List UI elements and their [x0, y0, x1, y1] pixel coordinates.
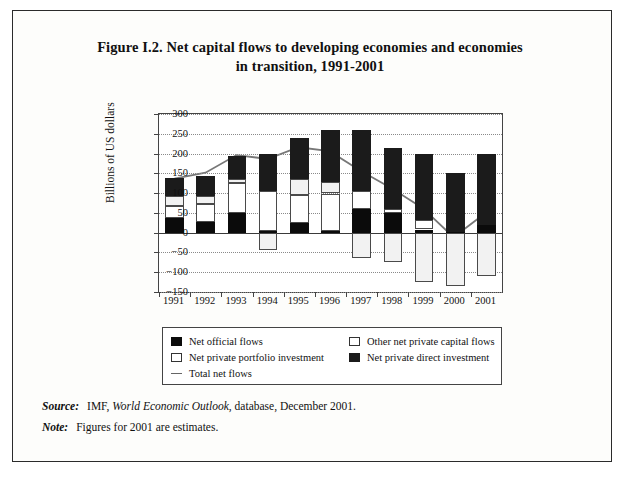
x-tick-mark [284, 292, 285, 297]
y-gridline [159, 292, 502, 293]
x-tick-label: 1996 [319, 295, 340, 306]
legend-label-direct: Net private direct investment [367, 352, 489, 363]
source-post: , database, December 2001. [229, 400, 356, 412]
bar-group[interactable] [228, 114, 247, 292]
open-square-icon [349, 337, 360, 346]
x-tick-label: 1998 [381, 295, 402, 306]
figure-title: Figure I.2. Net capital flows to develop… [60, 38, 560, 76]
note-text: Figures for 2001 are estimates. [76, 421, 562, 433]
y-tick-label: 0 [148, 226, 188, 237]
source-label: Source: [42, 400, 79, 412]
bar-segment-other [352, 233, 371, 259]
bar-segment-official [290, 223, 309, 233]
legend-row: Net official flows Other net private cap… [171, 333, 493, 349]
y-tick-label: −50 [148, 246, 188, 257]
x-tick-mark [315, 292, 316, 297]
bar-segment-other [321, 182, 340, 194]
bar-segment-official [228, 213, 247, 233]
bar-segment-official [477, 225, 496, 233]
bar-group[interactable] [259, 114, 278, 292]
bar-segment-portfolio [352, 191, 371, 209]
bar-segment-direct [446, 173, 465, 232]
bar-segment-portfolio [415, 220, 434, 230]
legend-item-official: Net official flows [171, 336, 349, 347]
figure-title-line-2: in transition, 1991-2001 [60, 57, 560, 76]
bar-segment-direct [259, 154, 278, 192]
source-publication: World Economic Outlook [112, 400, 228, 412]
bar-group[interactable] [290, 114, 309, 292]
legend-label-portfolio: Net private portfolio investment [189, 352, 324, 363]
bar-segment-other [477, 233, 496, 277]
y-tick-label: 150 [148, 167, 188, 178]
x-tick-mark [471, 292, 472, 297]
bar-segment-direct [477, 154, 496, 225]
bar-segment-direct [352, 130, 371, 191]
note-label: Note: [42, 421, 68, 433]
bar-group[interactable] [446, 114, 465, 292]
bar-segment-other [290, 179, 309, 195]
note-line: Note: Figures for 2001 are estimates. [42, 421, 562, 433]
filled-square-icon [349, 353, 360, 362]
y-tick-label: 100 [148, 187, 188, 198]
x-tick-mark [346, 292, 347, 297]
footnotes: Source: IMF, World Economic Outlook, dat… [42, 400, 562, 442]
open-square-icon [171, 353, 182, 362]
bar-segment-portfolio [228, 183, 247, 213]
x-tick-label: 1999 [413, 295, 434, 306]
legend-item-other: Other net private capital flows [349, 336, 499, 347]
bar-segment-direct [321, 130, 340, 181]
bar-segment-other [446, 233, 465, 286]
bar-segment-official [352, 209, 371, 233]
y-axis-title: Billions of US dollars [104, 102, 116, 203]
filled-square-icon [171, 337, 182, 346]
x-tick-mark [377, 292, 378, 297]
y-tick-label: 50 [148, 206, 188, 217]
x-tick-mark [408, 292, 409, 297]
x-tick-mark [253, 292, 254, 297]
x-tick-label: 1995 [288, 295, 309, 306]
bar-segment-portfolio [196, 204, 215, 222]
bar-segment-other [196, 196, 215, 204]
chart-container: Billions of US dollars 30025020015010050… [110, 105, 540, 305]
bar-segment-official [196, 222, 215, 233]
bar-segment-direct [290, 138, 309, 180]
bar-group[interactable] [477, 114, 496, 292]
legend-label-total: Total net flows [189, 368, 252, 379]
bar-group[interactable] [352, 114, 371, 292]
legend-label-official: Net official flows [189, 336, 263, 347]
bar-segment-portfolio [290, 195, 309, 223]
x-tick-label: 1994 [257, 295, 278, 306]
bar-segment-official [321, 231, 340, 233]
legend-row: Total net flows [171, 365, 493, 381]
x-tick-mark [221, 292, 222, 297]
x-tick-label: 1997 [350, 295, 371, 306]
bar-segment-portfolio [321, 194, 340, 232]
figure-page: Figure I.2. Net capital flows to develop… [0, 0, 633, 481]
bar-segment-direct [384, 148, 403, 209]
legend-item-direct: Net private direct investment [349, 352, 499, 363]
bar-segment-other [384, 233, 403, 263]
x-tick-label: 1993 [225, 295, 246, 306]
bar-group[interactable] [321, 114, 340, 292]
figure-title-line-1: Figure I.2. Net capital flows to develop… [60, 38, 560, 57]
bar-group[interactable] [384, 114, 403, 292]
bar-segment-direct [228, 156, 247, 180]
x-tick-label: 1992 [194, 295, 215, 306]
bar-segment-direct [415, 154, 434, 219]
bar-segment-official [384, 213, 403, 233]
x-tick-label: 2000 [444, 295, 465, 306]
bar-segment-other [228, 179, 247, 183]
chart-legend: Net official flows Other net private cap… [162, 327, 502, 385]
bar-group[interactable] [415, 114, 434, 292]
x-tick-mark [440, 292, 441, 297]
x-tick-label: 2001 [475, 295, 496, 306]
bar-segment-other [259, 233, 278, 251]
bar-group[interactable] [196, 114, 215, 292]
bar-segment-portfolio [384, 209, 403, 213]
line-segment-icon [171, 373, 182, 374]
legend-item-total: Total net flows [171, 368, 349, 379]
legend-item-portfolio: Net private portfolio investment [171, 352, 349, 363]
y-tick-label: −100 [148, 266, 188, 277]
source-pre: IMF, [87, 400, 109, 412]
legend-label-other: Other net private capital flows [367, 336, 495, 347]
